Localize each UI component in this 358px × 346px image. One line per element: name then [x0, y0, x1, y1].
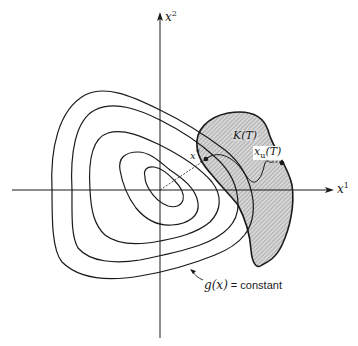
x2-label-base: x — [165, 10, 172, 24]
region-label: K(T) — [232, 130, 258, 141]
contour-label-eq: = constant — [228, 279, 282, 291]
xstar-sup: * — [196, 148, 200, 157]
x2-axis-label: x2 — [165, 10, 177, 23]
contour-4 — [120, 152, 199, 225]
trajectory-end-point — [280, 161, 285, 166]
optimum-label: x* — [190, 149, 200, 161]
diagram-canvas — [0, 0, 358, 346]
xu-arg: (T) — [265, 145, 281, 158]
contour-5 — [144, 167, 183, 207]
figure: x2 x1 K(T) xu(T) x* g(x) = constant — [0, 0, 358, 346]
x1-axis-label: x1 — [337, 182, 349, 195]
x1-label-base: x — [337, 182, 344, 196]
x2-label-sup: 2 — [172, 9, 177, 18]
leader-arrowhead-icon — [190, 269, 196, 274]
contour-label: g(x) = constant — [204, 275, 282, 293]
trajectory-end-label: xu(T) — [253, 146, 282, 160]
x1-label-sup: 1 — [344, 181, 349, 190]
gradient-ray — [160, 160, 205, 190]
contour-label-func: g(x) — [204, 278, 228, 292]
